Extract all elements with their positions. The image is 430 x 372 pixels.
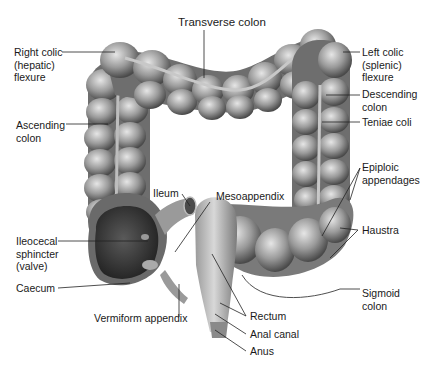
label-anal-canal: Anal canal: [250, 328, 299, 341]
label-sigmoid-colon: Sigmoid colon: [362, 287, 400, 312]
colon-anatomy-diagram: Transverse colon Right colic (hepatic) f…: [0, 0, 430, 372]
label-right-colic-flexure: Right colic (hepatic) flexure: [14, 46, 62, 84]
label-descending-colon: Descending colon: [362, 88, 417, 113]
appendix-shape: [160, 270, 188, 304]
label-epiploic-appendages: Epiploic appendages: [362, 161, 420, 186]
label-teniae-coli: Teniae coli: [362, 116, 412, 129]
label-ileocecal-sphincter: Ileocecal sphincter (valve): [16, 235, 59, 273]
label-haustra: Haustra: [362, 224, 399, 237]
label-left-colic-flexure: Left colic (splenic) flexure: [362, 46, 403, 84]
rectum-shape: [195, 197, 237, 338]
caecum-shape: [88, 193, 167, 285]
label-mesoappendix: Mesoappendix: [216, 190, 284, 203]
label-ascending-colon: Ascending colon: [16, 119, 65, 144]
label-transverse-colon: Transverse colon: [178, 16, 266, 29]
label-anus: Anus: [250, 345, 274, 358]
label-rectum: Rectum: [250, 310, 286, 323]
label-caecum: Caecum: [16, 282, 55, 295]
label-vermiform-appendix: Vermiform appendix: [94, 312, 187, 325]
label-ileum: Ileum: [153, 187, 179, 200]
